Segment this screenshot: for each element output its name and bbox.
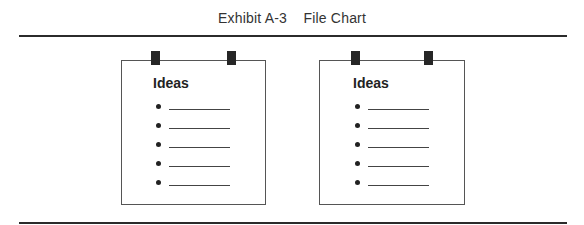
blank-line [169, 166, 230, 167]
bullet-icon [156, 104, 161, 109]
bullet-icon [156, 142, 161, 147]
exhibit-title: Exhibit A-3 File Chart [0, 10, 584, 26]
card-heading: Ideas [353, 75, 389, 91]
binder-clip-icon [424, 51, 433, 65]
blank-line [368, 109, 429, 110]
blank-line [368, 166, 429, 167]
bullet-icon [355, 161, 360, 166]
bottom-rule [19, 222, 567, 224]
blank-line [368, 185, 429, 186]
bullet-icon [156, 123, 161, 128]
bullet-icon [355, 142, 360, 147]
bullet-icon [355, 104, 360, 109]
bullet-icon [355, 123, 360, 128]
binder-clip-icon [151, 51, 160, 65]
binder-clip-icon [227, 51, 236, 65]
top-rule [19, 35, 567, 37]
blank-line [169, 185, 230, 186]
blank-line [368, 147, 429, 148]
blank-line [368, 128, 429, 129]
file-card-right: Ideas [319, 60, 465, 205]
blank-line [169, 147, 230, 148]
file-card-left: Ideas [121, 60, 266, 205]
bullet-icon [355, 180, 360, 185]
blank-line [169, 128, 230, 129]
blank-line [169, 109, 230, 110]
card-heading: Ideas [153, 75, 189, 91]
binder-clip-icon [351, 51, 360, 65]
bullet-icon [156, 161, 161, 166]
bullet-icon [156, 180, 161, 185]
